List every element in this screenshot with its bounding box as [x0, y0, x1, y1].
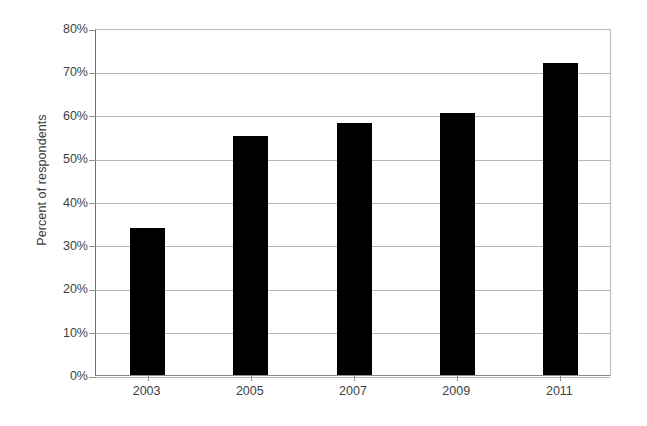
x-axis-tick-mark [354, 375, 355, 381]
x-axis-tick-mark [560, 375, 561, 381]
y-axis-tick-label: 0% [40, 369, 88, 383]
gridline [96, 116, 610, 117]
x-axis-tick-label: 2009 [416, 384, 496, 398]
bar-2005 [233, 136, 268, 375]
y-axis-tick-mark [89, 30, 96, 31]
y-axis-tick-label: 30% [40, 239, 88, 253]
y-axis-tick-label: 80% [40, 22, 88, 36]
plot-area [95, 29, 611, 376]
bar-2007 [337, 123, 372, 375]
bar-2003 [130, 228, 165, 375]
bar-chart-figure: Percent of respondents 0%10%20%30%40%50%… [0, 0, 647, 426]
y-axis-tick-label: 40% [40, 196, 88, 210]
y-axis-tick-mark [89, 116, 96, 117]
x-axis-tick-label: 2005 [210, 384, 290, 398]
bar-2009 [440, 113, 475, 375]
gridline [96, 377, 610, 378]
x-axis-tick-mark [457, 375, 458, 381]
y-axis-tick-mark [89, 246, 96, 247]
gridline [96, 73, 610, 74]
y-axis-tick-mark [89, 290, 96, 291]
x-axis-tick-mark [251, 375, 252, 381]
y-axis-tick-label: 20% [40, 282, 88, 296]
y-axis-tick-mark [89, 377, 96, 378]
y-axis-tick-label: 60% [40, 109, 88, 123]
x-axis-tick-label: 2003 [107, 384, 187, 398]
x-axis-tick-label: 2007 [313, 384, 393, 398]
y-axis-tick-labels: 0%10%20%30%40%50%60%70%80% [33, 29, 88, 376]
y-axis-tick-mark [89, 73, 96, 74]
y-axis-tick-mark [89, 333, 96, 334]
y-axis-tick-label: 50% [40, 152, 88, 166]
x-axis-tick-label: 2011 [519, 384, 599, 398]
y-axis-tick-label: 10% [40, 326, 88, 340]
y-axis-tick-mark [89, 203, 96, 204]
x-axis-tick-mark [148, 375, 149, 381]
y-axis-tick-label: 70% [40, 65, 88, 79]
bar-2011 [543, 63, 578, 375]
y-axis-tick-mark [89, 160, 96, 161]
x-axis-tick-labels: 20032005200720092011 [95, 384, 611, 406]
